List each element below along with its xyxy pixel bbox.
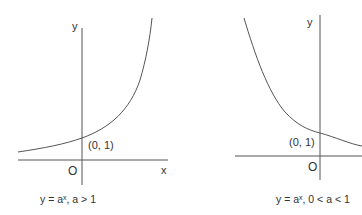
y-axis-label: y <box>72 21 78 32</box>
caption-decay: y = aˣ, 0 < a < 1 <box>276 194 350 205</box>
origin-label: O <box>308 161 317 173</box>
caption-growth: y = aˣ, a > 1 <box>40 194 96 205</box>
diagram-canvas <box>0 0 362 215</box>
x-axis-label: x <box>161 165 167 176</box>
exponential-decay-curve <box>244 18 362 146</box>
origin-label: O <box>68 165 77 177</box>
point-label: (0, 1) <box>289 137 315 148</box>
point-label: (0, 1) <box>88 140 114 151</box>
graph-growth <box>18 18 168 185</box>
y-axis-label: y <box>307 17 313 28</box>
exponential-growth-curve <box>18 18 152 152</box>
graph-decay <box>235 15 362 180</box>
